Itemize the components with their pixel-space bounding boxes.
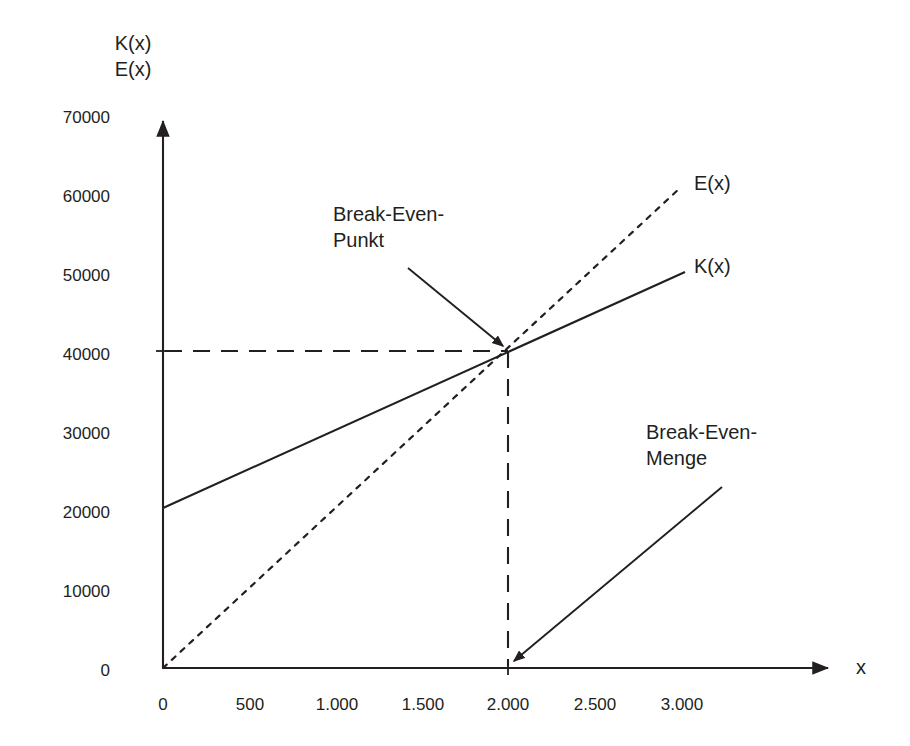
break-even-quantity-leader-arrow <box>514 487 722 661</box>
break-even-chart-svg <box>0 0 910 746</box>
break-even-quantity-annotation-line2: Menge <box>646 445 707 471</box>
y-tick-label-10000: 10000 <box>0 581 110 603</box>
x-axis-title: x <box>856 655 866 681</box>
y-tick-label-20000: 20000 <box>0 502 110 524</box>
x-tick-label-2500: 2.500 <box>555 694 635 716</box>
chart-canvas: K(x) E(x) x 70000 60000 50000 40000 3000… <box>0 0 910 746</box>
cost-curve-kx <box>163 272 685 508</box>
y-axis-title-line2: E(x) <box>88 57 178 83</box>
y-tick-label-30000: 30000 <box>0 423 110 445</box>
x-tick-label-500: 500 <box>210 694 290 716</box>
x-tick-label-2000: 2.000 <box>468 694 548 716</box>
revenue-curve-ex <box>163 188 680 668</box>
y-tick-label-0: 0 <box>0 660 110 682</box>
x-tick-label-1000: 1.000 <box>297 694 377 716</box>
y-tick-label-60000: 60000 <box>0 186 110 208</box>
y-tick-label-70000: 70000 <box>0 107 110 129</box>
x-tick-label-1500: 1.500 <box>383 694 463 716</box>
cost-curve-label-kx: K(x) <box>694 254 731 280</box>
x-tick-label-3000: 3.000 <box>642 694 722 716</box>
y-tick-label-50000: 50000 <box>0 265 110 287</box>
break-even-point-annotation-line1: Break-Even- <box>333 201 444 227</box>
y-axis-title-line1: K(x) <box>88 31 178 57</box>
break-even-quantity-annotation-line1: Break-Even- <box>646 419 757 445</box>
break-even-point-annotation-line2: Punkt <box>333 227 384 253</box>
y-tick-label-40000: 40000 <box>0 344 110 366</box>
x-tick-label-0: 0 <box>123 694 203 716</box>
break-even-point-leader-arrow <box>408 268 503 346</box>
revenue-curve-label-ex: E(x) <box>694 171 731 197</box>
